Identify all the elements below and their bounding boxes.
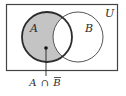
set-a-label: A <box>29 22 38 35</box>
venn-diagram: A B U A ∩ B <box>0 0 126 96</box>
annotation-set-a: A <box>28 77 36 88</box>
annotation-label: A ∩ B <box>28 77 60 88</box>
universe-label: U <box>105 7 115 20</box>
annotation-operator: ∩ <box>41 77 49 88</box>
annotation-set-b: B <box>52 77 60 88</box>
set-b-label: B <box>84 22 93 35</box>
